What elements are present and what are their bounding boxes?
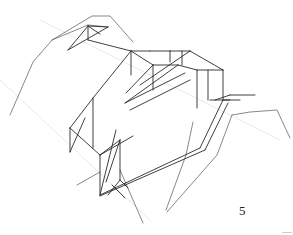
faint-guide-lines bbox=[0, 20, 280, 220]
truss-member bbox=[100, 136, 133, 155]
figure-label: 5 bbox=[239, 203, 245, 219]
truss-member bbox=[125, 65, 178, 103]
truss-member bbox=[200, 100, 223, 148]
faint-line bbox=[40, 20, 280, 140]
truss-structure bbox=[68, 26, 255, 198]
terrain-line bbox=[10, 16, 133, 115]
truss-member bbox=[190, 51, 223, 70]
truss-member bbox=[88, 26, 108, 27]
truss-member bbox=[100, 130, 116, 195]
truss-member bbox=[93, 51, 131, 98]
terrain-line bbox=[167, 115, 232, 212]
truss-member bbox=[131, 51, 153, 65]
truss-diagram bbox=[0, 0, 293, 235]
terrain-line bbox=[52, 25, 108, 40]
truss-member bbox=[88, 40, 131, 51]
truss-member bbox=[112, 185, 125, 198]
terrain-line bbox=[166, 122, 193, 210]
truss-member bbox=[178, 65, 197, 70]
terrain-line bbox=[232, 110, 290, 138]
truss-member bbox=[140, 51, 190, 85]
truss-member bbox=[215, 95, 230, 100]
truss-member bbox=[205, 103, 228, 150]
truss-member bbox=[130, 80, 190, 110]
terrain-outline bbox=[10, 16, 290, 223]
corner-mark bbox=[282, 232, 292, 233]
truss-member bbox=[70, 98, 93, 128]
terrain-line bbox=[77, 172, 100, 185]
truss-member bbox=[70, 118, 85, 152]
